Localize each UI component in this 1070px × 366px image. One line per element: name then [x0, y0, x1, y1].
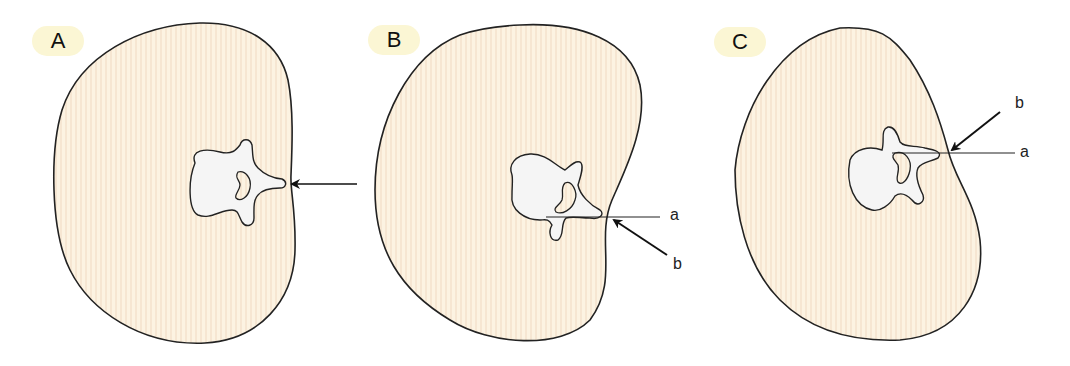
panel-label-c: C [714, 27, 766, 57]
body-cross-section-b [375, 25, 642, 341]
arrow-label-b-panel-b: b [673, 255, 682, 273]
arrow-label-b-panel-c: b [1015, 94, 1024, 112]
line-label-a-panel-b: a [670, 206, 679, 224]
panel-c [735, 28, 1015, 340]
panel-label-a: A [32, 26, 84, 56]
arrow-c [952, 112, 1000, 150]
arrow-b [614, 220, 667, 255]
panel-label-b: B [368, 25, 420, 55]
panel-a [54, 23, 357, 343]
panel-b [375, 25, 667, 341]
line-label-a-panel-c: a [1020, 143, 1029, 161]
diagram-canvas [0, 0, 1070, 366]
